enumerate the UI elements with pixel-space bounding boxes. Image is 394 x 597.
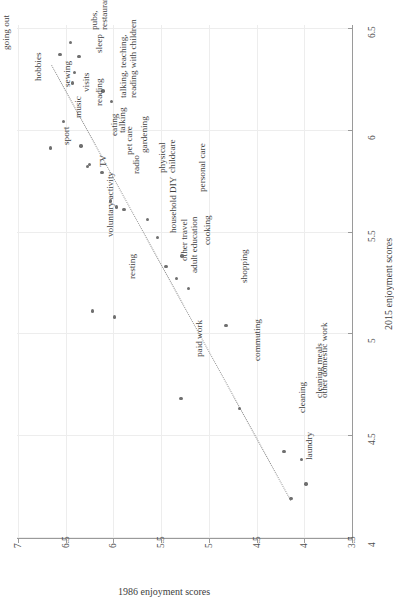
tick-label-y: 5 [205,543,215,548]
tick-mark-x [348,232,353,233]
tick-label-x: 4 [368,542,378,547]
tick-label-y: 4 [300,543,310,548]
data-point [180,254,183,257]
tick-label-y: 7 [14,543,24,548]
tick-mark-x [348,130,353,131]
x-axis-title: 2015 enjoyment scores [383,238,394,330]
data-point [300,458,303,461]
gridline-x [17,28,352,29]
tick-label-x: 5.5 [368,230,378,242]
data-point [175,277,178,280]
data-point [289,497,292,500]
gridline-y [161,25,162,538]
data-point [86,165,89,168]
data-point [304,482,307,485]
tick-label-y: 4.5 [253,536,263,548]
tick-mark-x [348,28,353,29]
data-point-label: commuting [253,319,263,361]
data-point-label: household DIY [169,176,179,232]
data-point [77,55,80,58]
data-point-label: cleaning [298,382,308,413]
data-point [179,397,182,400]
data-point-label: visits [82,73,92,92]
tick-label-x: 6.5 [368,26,378,38]
tick-label-x: 6 [368,135,378,140]
data-point [91,309,94,312]
data-point-label: personal care [198,143,208,192]
gridline-y [18,25,19,538]
data-point-label: talking, teaching, reading with children [119,20,138,99]
data-point-label: other domestic work [320,323,330,399]
data-point-label: pet care [125,126,135,155]
data-point [79,144,82,147]
data-point-label: pubs, restaurants [90,0,109,30]
tick-label-y: 6 [109,543,119,548]
data-point-label: adult education [190,217,200,273]
data-point [187,287,190,290]
data-point-label: voluntary activity [106,172,116,237]
data-point-label: shopping [240,250,250,284]
data-point [122,208,125,211]
data-point-label: hobbies [34,52,44,81]
gridline-y [113,25,114,538]
data-point-label: sleep [95,34,105,53]
data-point [58,53,61,56]
data-point-label: TV [99,155,109,167]
tick-mark-x [348,333,353,334]
gridline-y [66,25,67,538]
gridline-x [17,435,352,436]
data-point-label: cooking [203,215,213,245]
tick-label-x: 4.5 [368,433,378,445]
data-point [156,236,159,239]
x-axis-line [352,25,353,539]
data-point [69,41,72,44]
data-point [73,71,76,74]
data-point [164,265,167,268]
gridline-y [209,25,210,538]
gridline-y [304,25,305,538]
tick-mark-x [348,435,353,436]
data-point-label: physical childcare [158,140,177,174]
data-point [49,146,52,149]
data-point-label: laundry [305,432,315,460]
data-point-label: going out [2,15,12,50]
data-point-label: sport [62,127,72,145]
data-point-label: paid work [195,320,205,357]
data-point-label: gardening [140,116,150,153]
data-point-label: music [74,96,84,118]
tick-label-y: 3.5 [348,536,358,548]
data-point [224,324,227,327]
tick-label-y: 6.5 [62,536,72,548]
data-point-label: reading [95,79,105,107]
data-point [146,218,149,221]
tick-label-x: 5 [368,339,378,344]
data-point [100,171,103,174]
data-point [113,315,116,318]
gridline-y [257,25,258,538]
data-point [282,450,285,453]
data-point-label: radio [132,155,142,174]
data-point-label: resting [128,254,138,279]
tick-label-y: 5.5 [157,536,167,548]
gridline-x [17,333,352,334]
y-axis-title: 1986 enjoyment scores [118,586,210,597]
data-point-label: sewing [63,61,73,87]
